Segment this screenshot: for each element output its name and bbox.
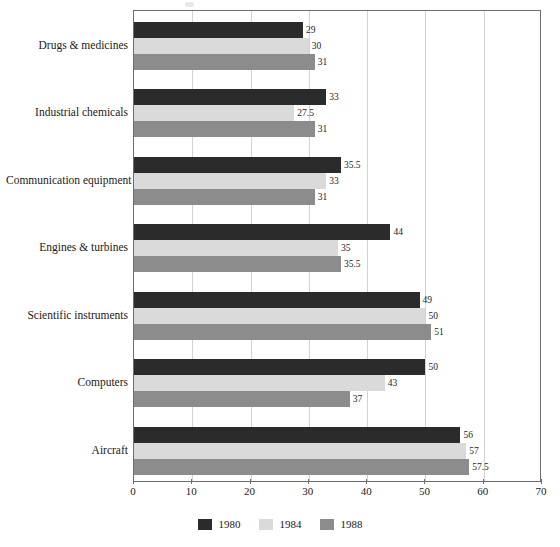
bar-value-label: 56 (460, 427, 473, 443)
scan-artifact (185, 2, 194, 7)
x-tick-label: 50 (419, 484, 430, 498)
bar-1988 (134, 459, 469, 475)
x-axis: 010203040506070 (133, 484, 541, 502)
legend-swatch-icon (320, 519, 334, 530)
bar-1984 (134, 38, 309, 54)
bar-1980 (134, 292, 420, 308)
bar-value-label: 30 (309, 38, 322, 54)
x-tick-label: 10 (186, 484, 197, 498)
bar-value-label: 31 (315, 189, 328, 205)
bar-value-label: 57.5 (469, 459, 489, 475)
bar-1980 (134, 359, 425, 375)
legend-swatch-icon (198, 519, 212, 530)
bar-value-label: 27.5 (294, 105, 314, 121)
bar-group: 35.53331 (134, 157, 540, 205)
x-tick-label: 20 (244, 484, 255, 498)
bar-value-label: 31 (315, 121, 328, 137)
bar-1984 (134, 375, 385, 391)
bar-1988 (134, 256, 341, 272)
x-tick-label: 30 (302, 484, 313, 498)
bar-group: 495051 (134, 292, 540, 340)
bar-1988 (134, 324, 431, 340)
bar-value-label: 37 (350, 391, 363, 407)
bar-1980 (134, 157, 341, 173)
bar-value-label: 35 (338, 240, 351, 256)
x-tick-label: 0 (130, 484, 136, 498)
legend-label: 1980 (219, 519, 241, 530)
plot-area: 2930313327.53135.53331443535.54950515043… (133, 10, 541, 482)
bar-value-label: 33 (326, 89, 339, 105)
bar-value-label: 57 (466, 443, 479, 459)
bar-value-label: 35.5 (341, 256, 361, 272)
bar-value-label: 31 (315, 54, 328, 70)
category-label: Aircraft (6, 444, 128, 456)
bar-group: 565757.5 (134, 427, 540, 475)
legend-item-1980[interactable]: 1980 (198, 519, 241, 530)
x-tick-label: 60 (477, 484, 488, 498)
bar-value-label: 33 (326, 173, 339, 189)
bar-value-label: 44 (390, 224, 403, 240)
bar-1984 (134, 443, 466, 459)
legend-label: 1984 (280, 519, 302, 530)
legend-label: 1988 (341, 519, 363, 530)
bar-chart: Drugs & medicinesIndustrial chemicalsCom… (0, 0, 560, 547)
bar-1984 (134, 308, 425, 324)
bar-group: 443535.5 (134, 224, 540, 272)
category-label: Computers (6, 376, 128, 388)
category-label: Engines & turbines (6, 241, 128, 253)
bar-group: 504337 (134, 359, 540, 407)
category-label: Scientific instruments (6, 309, 128, 321)
legend-item-1988[interactable]: 1988 (320, 519, 363, 530)
bar-group: 293031 (134, 22, 540, 70)
bar-1984 (134, 240, 338, 256)
bar-1980 (134, 22, 303, 38)
bar-value-label: 35.5 (341, 157, 361, 173)
category-axis-labels: Drugs & medicinesIndustrial chemicalsCom… (0, 10, 128, 482)
bar-value-label: 50 (425, 308, 438, 324)
bar-value-label: 43 (385, 375, 398, 391)
category-label: Communication equipment (6, 174, 128, 186)
bar-1988 (134, 121, 315, 137)
x-tick-label: 40 (361, 484, 372, 498)
plot-inner: 2930313327.53135.53331443535.54950515043… (134, 11, 540, 481)
bar-1980 (134, 427, 460, 443)
category-label: Industrial chemicals (6, 106, 128, 118)
legend-swatch-icon (259, 519, 273, 530)
category-label: Drugs & medicines (6, 39, 128, 51)
bar-value-label: 51 (431, 324, 444, 340)
legend-item-1984[interactable]: 1984 (259, 519, 302, 530)
bar-1988 (134, 391, 350, 407)
bar-value-label: 29 (303, 22, 316, 38)
bar-1984 (134, 105, 294, 121)
bar-1980 (134, 89, 326, 105)
bar-value-label: 50 (425, 359, 438, 375)
x-tick-label: 70 (536, 484, 547, 498)
bar-1988 (134, 189, 315, 205)
bar-1984 (134, 173, 326, 189)
bar-1980 (134, 224, 390, 240)
bar-1988 (134, 54, 315, 70)
bar-group: 3327.531 (134, 89, 540, 137)
bar-value-label: 49 (420, 292, 433, 308)
legend: 198019841988 (0, 512, 560, 536)
